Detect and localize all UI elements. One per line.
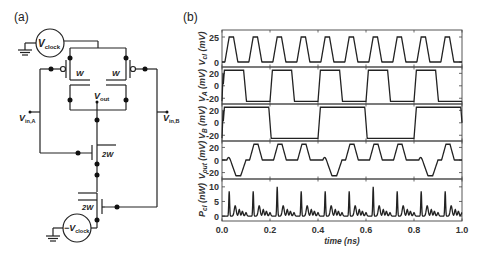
xlabel: time (ns) [324, 236, 360, 246]
ylabel: VB (mV) [197, 106, 208, 139]
xtick-label: 0.6 [360, 225, 373, 235]
ytick-label: 20 [209, 106, 219, 116]
ytick-label: 0 [214, 81, 219, 91]
waveform-cl [222, 37, 462, 62]
ytick-label: 0 [214, 212, 219, 222]
waveform-out [222, 144, 462, 175]
ylabel: Pcl (nW) [197, 183, 208, 217]
subplot-cl: 025Vcl (mV) [197, 30, 462, 68]
xtick-label: 0.2 [264, 225, 277, 235]
waveform-A [222, 70, 462, 101]
subplot-A: 200-20VA (mV) [197, 67, 462, 104]
waveform-cl [222, 187, 462, 216]
xtick-label: 1.0 [456, 225, 469, 235]
xtick-label: 0.0 [216, 225, 229, 235]
ytick-label: 20 [209, 143, 219, 153]
ytick-label: 0 [214, 58, 219, 68]
ytick-label: 5 [214, 197, 219, 207]
ytick-label: 20 [209, 69, 219, 79]
waveform-chart: 025Vcl (mV)200-20VA (mV)200-20VB (mV)200… [0, 0, 482, 253]
subplot-cl: 1050Pcl (nW) [197, 179, 462, 222]
ytick-label: 25 [209, 33, 219, 43]
ylabel: Vout (mV) [197, 141, 208, 180]
ytick-label: 10 [209, 182, 219, 192]
xtick-label: 0.4 [312, 225, 325, 235]
subplot-out: 200-20Vout (mV) [197, 141, 462, 180]
ytick-label: 0 [214, 118, 219, 128]
xtick-label: 0.8 [408, 225, 421, 235]
ytick-label: 0 [214, 156, 219, 166]
ylabel: Vcl (mV) [197, 32, 208, 66]
ylabel: VA (mV) [197, 69, 208, 102]
waveform-B [222, 107, 462, 138]
subplot-B: 200-20VB (mV) [197, 104, 462, 141]
